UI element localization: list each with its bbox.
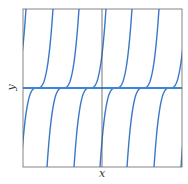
x-axis-label: x <box>99 167 105 180</box>
solution-curves <box>0 0 188 184</box>
solution-curve <box>0 0 28 183</box>
solution-curves-plot <box>0 0 188 184</box>
y-axis-label: y <box>5 84 18 90</box>
solution-curve <box>45 0 81 184</box>
solution-curve <box>0 0 1 69</box>
solution-curve <box>179 23 188 184</box>
solution-curve <box>98 0 134 184</box>
